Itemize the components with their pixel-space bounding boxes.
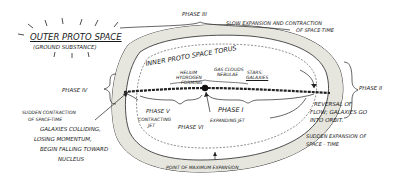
phase3-title: PHASE III [182,11,207,17]
phase4-desc-line1: SUDDEN CONTRACTION [22,110,76,115]
phase1-desc: EXPANDING JET [210,118,245,123]
phase3-desc-line1: SLOW EXPANSION AND CONTRACTION [226,21,322,27]
phase4-desc-line2: OF SPACE-TIME [28,117,62,122]
nucleus [202,85,208,91]
max-expansion-label: POINT OF MAXIMUM EXPANSION [166,165,239,170]
phase6-title: PHASE VI [178,124,203,130]
outer-proto-space-title: OUTER PROTO SPACE [30,33,122,43]
galaxies-label: GALAXIES [246,75,268,80]
forming-label: FORMING [181,80,202,85]
phase2-desc-line1: REVERSAL OF [314,101,352,107]
nebulae-label: NEBULAE [217,72,238,77]
phase4-desc2-line3: BEGIN FALLING TOWARD [40,146,108,152]
phase2-title: PHASE II [359,85,382,91]
phase4-desc2-line1: GALAXIES COLLIDING, [40,126,101,132]
phase5-desc-line1: CONTRACTING [138,117,171,122]
phase5-title: PHASE V [146,108,170,114]
phase2-desc-line3: INTO ORBIT. [310,117,343,123]
phase5-desc-line2: JET [148,123,155,128]
phase2-desc-line2: FLOW; GALAXIES GO [310,109,367,115]
phase2-desc2-line2: SPACE - TIME [306,142,339,148]
phase4-desc2-line4: NUCLEUS [58,156,84,162]
phase3-desc-line2: OF SPACE-TIME [296,28,334,34]
phase4-title: PHASE IV [62,87,87,93]
phase4-desc2-line2: LOSING MOMENTUM, [34,136,92,142]
phase2-desc2-line1: SUDDEN EXPANSION OF [306,134,366,140]
outer-proto-space-subtitle: (GROUND SUBSTANCE) [33,44,97,50]
phase1-title: PHASE I [218,107,243,114]
